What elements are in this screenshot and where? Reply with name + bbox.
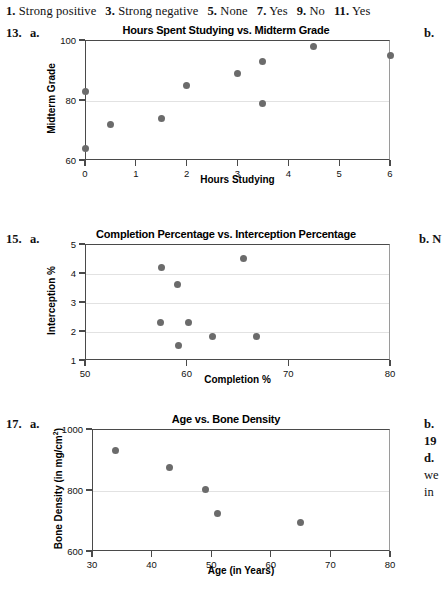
x-tick-mark — [186, 160, 187, 166]
data-point — [259, 100, 266, 107]
chart-title: Age vs. Bone Density — [47, 413, 405, 425]
y-tick-label: 1 — [71, 355, 76, 366]
x-tick-mark — [288, 360, 289, 366]
margin-part-17d: d. — [424, 451, 434, 466]
scatter-chart-age-vs-bone-density: Age vs. Bone Density 6008001000304050607… — [47, 413, 405, 596]
margin-part-17b: b. — [424, 417, 434, 432]
answer-key-page: 1. Strong positive3. Strong negative5. N… — [0, 0, 445, 596]
answer-text: Strong negative — [118, 4, 198, 18]
answer-number: 1. — [6, 4, 16, 18]
plot-area — [92, 429, 390, 551]
data-point — [214, 510, 221, 517]
data-point — [234, 70, 241, 77]
y-tick-label: 800 — [67, 485, 83, 496]
answer-item-3: 3. Strong negative — [105, 4, 198, 18]
answer-key-line: 1. Strong positive3. Strong negative5. N… — [6, 2, 442, 20]
answer-item-9: 9. No — [297, 4, 325, 18]
data-point — [387, 52, 394, 59]
problem-number-13: 13. — [6, 26, 22, 41]
answer-text: Strong positive — [19, 4, 97, 18]
answer-number: 9. — [297, 4, 307, 18]
y-tick-mark — [79, 301, 85, 302]
x-tick-mark — [84, 160, 85, 166]
data-point — [185, 319, 192, 326]
answer-item-1: 1. Strong positive — [6, 4, 96, 18]
gridline — [93, 491, 389, 492]
x-tick-mark — [330, 551, 331, 557]
answer-number: 7. — [257, 4, 267, 18]
answer-text: None — [220, 4, 247, 18]
x-axis-title: Age (in Years) — [92, 565, 390, 576]
y-axis-title: Midterm Grade — [46, 54, 57, 144]
y-tick-mark — [79, 99, 85, 100]
chart-title: Hours Spent Studying vs. Midterm Grade — [47, 24, 405, 36]
answer-number: 3. — [105, 4, 115, 18]
y-tick-label: 100 — [60, 35, 76, 46]
x-tick-mark — [186, 360, 187, 366]
x-tick-mark — [389, 160, 390, 166]
x-axis-title: Completion % — [85, 374, 390, 385]
answer-item-11: 11. Yes — [334, 4, 371, 18]
chart-title: Completion Percentage vs. Interception P… — [47, 228, 405, 240]
x-tick-mark — [389, 551, 390, 557]
problem-part-17a: a. — [30, 417, 39, 432]
data-point — [183, 82, 190, 89]
gridline — [86, 101, 389, 102]
plot-area — [85, 244, 390, 360]
x-tick-mark — [237, 160, 238, 166]
scatter-chart-hours-vs-grade: Hours Spent Studying vs. Midterm Grade 6… — [47, 24, 405, 209]
y-tick-mark — [79, 243, 85, 244]
answer-text: Yes — [352, 4, 371, 18]
y-tick-label: 5 — [71, 239, 76, 250]
answer-item-5: 5. None — [207, 4, 247, 18]
margin-line-we: we — [424, 468, 439, 483]
x-tick-mark — [84, 360, 85, 366]
y-tick-label: 1000 — [62, 424, 83, 435]
margin-part-15b: b. N — [419, 232, 441, 247]
x-tick-mark — [339, 160, 340, 166]
answer-number: 11. — [334, 4, 349, 18]
y-tick-label: 80 — [65, 95, 76, 106]
answer-text: Yes — [269, 4, 288, 18]
problem-number-17: 17. — [6, 417, 22, 432]
problem-part-13a: a. — [30, 26, 39, 41]
x-tick-mark — [389, 360, 390, 366]
problem-part-15a: a. — [30, 232, 39, 247]
y-tick-mark — [79, 39, 85, 40]
y-tick-mark — [79, 272, 85, 273]
y-tick-mark — [86, 489, 92, 490]
x-tick-mark — [211, 551, 212, 557]
y-tick-mark — [79, 330, 85, 331]
data-point — [175, 342, 182, 349]
answer-item-7: 7. Yes — [257, 4, 288, 18]
data-point — [158, 115, 165, 122]
problem-number-15: 15. — [6, 232, 22, 247]
data-point — [107, 121, 114, 128]
x-tick-mark — [135, 160, 136, 166]
data-point — [82, 145, 89, 152]
y-tick-mark — [86, 428, 92, 429]
scatter-chart-completion-vs-interception: Completion Percentage vs. Interception P… — [47, 228, 405, 400]
gridline — [86, 303, 389, 304]
x-tick-mark — [270, 551, 271, 557]
y-tick-label: 3 — [71, 297, 76, 308]
y-tick-label: 4 — [71, 268, 76, 279]
y-tick-label: 600 — [67, 546, 83, 557]
x-axis-title: Hours Studying — [85, 174, 390, 185]
data-point — [310, 43, 317, 50]
data-point — [202, 486, 209, 493]
gridline — [86, 332, 389, 333]
x-tick-mark — [91, 551, 92, 557]
data-point — [259, 58, 266, 65]
data-point — [209, 333, 216, 340]
data-point — [158, 264, 165, 271]
y-axis-title: Interception % — [46, 253, 57, 348]
answer-number: 5. — [207, 4, 217, 18]
gridline — [86, 274, 389, 275]
answer-text: No — [309, 4, 324, 18]
data-point — [157, 319, 164, 326]
y-axis-title: Bone Density (in mg/cm2) — [52, 429, 64, 549]
margin-part-13b: b. — [424, 26, 434, 41]
y-tick-label: 60 — [65, 155, 76, 166]
data-point — [82, 88, 89, 95]
